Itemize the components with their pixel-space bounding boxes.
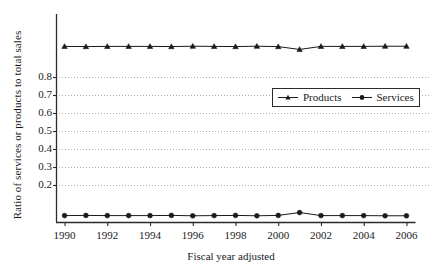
data-point-marker: [126, 213, 131, 218]
circle-marker-icon: [351, 92, 373, 103]
y-tick-label: 0.5: [0, 125, 52, 136]
x-tick-label: 1994: [139, 229, 161, 242]
data-point-marker: [212, 213, 217, 218]
data-point-marker: [169, 213, 174, 218]
data-point-marker: [383, 213, 388, 218]
data-point-marker: [297, 210, 302, 215]
data-point-marker: [148, 213, 153, 218]
data-point-marker: [404, 213, 409, 218]
triangle-marker-icon: [277, 92, 299, 103]
x-tick-label: 2002: [310, 229, 332, 242]
x-tick-label: 1992: [96, 229, 118, 242]
legend-item-services[interactable]: Services: [351, 91, 414, 104]
data-point-marker: [361, 213, 366, 218]
data-point-marker: [233, 213, 238, 218]
data-point-marker: [254, 213, 259, 218]
y-tick-label: 0.2: [0, 179, 52, 190]
y-tick-label: 0.6: [0, 107, 52, 118]
y-tick-label: 0.3: [0, 161, 52, 172]
data-point-marker: [319, 213, 324, 218]
chart-figure: Ratio of services or products to total s…: [0, 0, 431, 276]
data-point-marker: [62, 213, 67, 218]
data-point-marker: [190, 213, 195, 218]
x-axis-title: Fiscal year adjusted: [47, 250, 415, 262]
data-point-marker: [276, 213, 281, 218]
chart-legend: ProductsServices: [272, 88, 420, 107]
y-tick-label: 0.7: [0, 89, 52, 100]
x-tick-label: 2000: [267, 229, 289, 242]
x-tick-label: 1996: [182, 229, 204, 242]
legend-label: Services: [376, 91, 414, 104]
y-tick-label: 0.8: [0, 71, 52, 82]
x-axis-tick-labels: 199019921994199619982000200220042006: [0, 225, 431, 241]
x-tick-label: 2006: [395, 229, 417, 242]
x-tick-label: 2004: [353, 229, 375, 242]
data-point-marker: [340, 213, 345, 218]
legend-label: Products: [302, 91, 342, 104]
y-tick-label: 0.4: [0, 143, 52, 154]
x-tick-label: 1998: [225, 229, 247, 242]
x-tick-label: 1990: [54, 229, 76, 242]
data-point-marker: [105, 213, 110, 218]
legend-item-products[interactable]: Products: [277, 91, 342, 104]
data-point-marker: [84, 213, 89, 218]
